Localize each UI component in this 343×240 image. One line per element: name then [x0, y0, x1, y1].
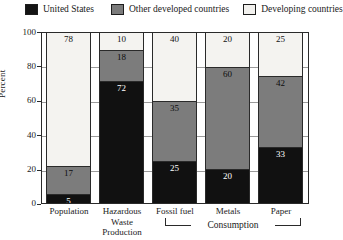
bar-population[interactable]: 78 17 5 — [46, 32, 91, 204]
legend-label-other-developed-countries: Other developed countries — [129, 4, 229, 15]
segment-population-developing[interactable]: 78 — [47, 33, 90, 166]
segment-fossil-fuel-other-developed[interactable]: 35 — [153, 101, 196, 161]
y-tick-label-80: 80 — [27, 62, 36, 71]
legend-swatch-developing-countries — [243, 4, 256, 15]
y-tick-label-60: 60 — [27, 96, 36, 105]
segment-value-hazardous-waste-other-developed: 18 — [117, 52, 126, 81]
segment-paper-other-developed[interactable]: 42 — [259, 76, 302, 147]
segment-value-fossil-fuel-developing: 40 — [170, 34, 179, 101]
segment-fossil-fuel-united-states[interactable]: 25 — [153, 161, 196, 204]
bar-group: 78 17 5 10 18 72 40 35 — [41, 32, 309, 204]
segment-value-hazardous-waste-developing: 10 — [117, 34, 126, 50]
x-axis-label-hazardous-line3: Production — [84, 227, 160, 238]
bar-paper[interactable]: 25 42 33 — [258, 32, 303, 204]
legend-label-united-states: United States — [43, 4, 94, 15]
y-axis-title: Percent — [0, 70, 7, 98]
bar-fossil-fuel[interactable]: 40 35 25 — [152, 32, 197, 204]
segment-paper-united-states[interactable]: 33 — [259, 147, 302, 203]
y-tick-mark-0 — [37, 204, 41, 205]
legend-item-developing-countries: Developing countries — [243, 4, 343, 15]
bracket-label: Consumption — [165, 219, 301, 231]
segment-value-population-developing: 78 — [64, 34, 73, 166]
consumption-bracket: Consumption — [165, 218, 301, 234]
bar-hazardous-waste-production[interactable]: 10 18 72 — [99, 32, 144, 204]
segment-paper-developing[interactable]: 25 — [259, 33, 302, 76]
legend-label-developing-countries: Developing countries — [261, 4, 343, 15]
segment-value-metals-other-developed: 60 — [223, 69, 232, 169]
segment-metals-united-states[interactable]: 20 — [206, 169, 249, 203]
segment-population-united-states[interactable]: 5 — [47, 194, 90, 203]
y-tick-label-100: 100 — [23, 28, 37, 37]
segment-value-fossil-fuel-other-developed: 35 — [170, 103, 179, 161]
y-tick-label-20: 20 — [27, 165, 36, 174]
segment-value-population-other-developed: 17 — [64, 168, 73, 195]
segment-hazardous-waste-developing[interactable]: 10 — [100, 33, 143, 50]
segment-fossil-fuel-developing[interactable]: 40 — [153, 33, 196, 101]
segment-value-paper-other-developed: 42 — [276, 78, 285, 147]
segment-hazardous-waste-other-developed[interactable]: 18 — [100, 50, 143, 81]
segment-value-paper-united-states: 33 — [276, 149, 285, 203]
segment-value-hazardous-waste-united-states: 72 — [117, 83, 126, 203]
segment-hazardous-waste-united-states[interactable]: 72 — [100, 81, 143, 203]
bar-metals[interactable]: 20 60 20 — [205, 32, 250, 204]
x-axis-label-hazardous-line2: Waste — [84, 217, 160, 228]
segment-metals-developing[interactable]: 20 — [206, 33, 249, 67]
segment-population-other-developed[interactable]: 17 — [47, 166, 90, 195]
segment-metals-other-developed[interactable]: 60 — [206, 67, 249, 169]
segment-value-paper-developing: 25 — [276, 34, 285, 76]
segment-value-fossil-fuel-united-states: 25 — [170, 163, 179, 204]
legend-item-other-developed-countries: Other developed countries — [111, 4, 229, 15]
x-axis-label-paper-line1: Paper — [243, 206, 319, 217]
chart-legend: United States Other developed countries … — [0, 1, 324, 18]
legend-swatch-other-developed-countries — [111, 4, 124, 15]
x-axis-label-paper: Paper — [243, 206, 319, 217]
y-tick-label-40: 40 — [27, 131, 36, 140]
segment-value-metals-developing: 20 — [223, 34, 232, 67]
segment-value-metals-united-states: 20 — [223, 171, 232, 203]
segment-value-population-united-states: 5 — [66, 196, 71, 203]
y-axis: Percent 100 80 60 40 20 0 — [0, 0, 41, 240]
